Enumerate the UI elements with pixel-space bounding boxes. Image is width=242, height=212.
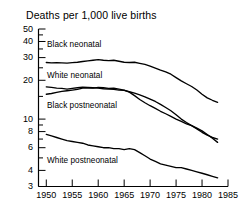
x-axis-ticks — [46, 180, 228, 187]
y-tick-label: 50 — [13, 25, 33, 34]
y-tick-label: 3 — [13, 182, 33, 191]
chart-container: Deaths per 1,000 live births 34681020304… — [0, 0, 242, 212]
series-label: White neonatal — [47, 71, 102, 80]
y-tick-label: 6 — [13, 143, 33, 152]
y-tick-label: 40 — [13, 37, 33, 46]
series-line — [46, 60, 217, 103]
y-axis-ticks — [39, 29, 46, 187]
y-tick-label: 30 — [13, 53, 33, 62]
series-label: Black postneonatal — [47, 101, 117, 110]
chart-plot-area — [0, 0, 242, 212]
series-label: Black neonatal — [47, 40, 101, 49]
y-tick-label: 10 — [13, 115, 33, 124]
series-line — [46, 87, 217, 142]
y-tick-label: 8 — [13, 127, 33, 136]
x-tick-label: 1985 — [211, 191, 242, 200]
series-label: White postneonatal — [47, 156, 118, 165]
y-tick-label: 4 — [13, 166, 33, 175]
y-tick-label: 20 — [13, 76, 33, 85]
